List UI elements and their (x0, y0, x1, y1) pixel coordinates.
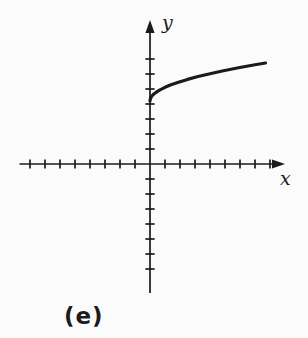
figure: y x (e) (0, 0, 308, 338)
x-axis-label: x (280, 169, 291, 188)
y-axis-arrowhead (145, 20, 154, 33)
curve-sqrt-curve (150, 63, 266, 101)
figure-caption: (e) (64, 303, 104, 331)
y-axis-label: y (162, 13, 173, 32)
plot-canvas (0, 0, 308, 338)
